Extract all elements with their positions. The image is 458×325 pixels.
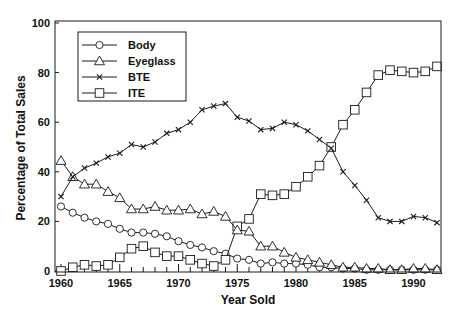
data-point [128,229,135,236]
data-point [103,187,113,196]
data-point [57,203,64,210]
data-point [292,182,301,191]
y-tick-label: 60 [38,116,50,128]
data-point [115,253,124,262]
data-point [362,88,371,97]
data-point [339,120,348,129]
data-point [245,215,254,224]
data-point [81,214,88,221]
data-point [92,262,101,271]
data-point [139,242,148,251]
data-point [127,244,136,253]
legend-label: BTE [128,71,150,83]
x-tick-label: 1975 [225,277,249,289]
y-tick-label: 100 [32,17,50,29]
x-tick-label: 1990 [401,277,425,289]
legend-label: Eyeglass [128,55,176,67]
legend-label: Body [128,39,156,51]
data-point [209,206,219,215]
y-axis-title: Percentage of Total Sales [14,75,28,220]
data-point [280,190,289,199]
data-point [93,218,100,225]
x-tick-label: 1970 [166,277,190,289]
data-point [188,120,193,125]
data-point [80,261,89,270]
data-point [162,205,172,214]
data-point [340,169,345,174]
data-point [186,256,195,265]
data-point [303,172,312,181]
data-point [163,233,170,240]
x-tick-label: 1965 [108,277,132,289]
data-point [221,211,231,220]
data-point [245,256,252,263]
data-point [80,179,90,188]
data-point [68,263,77,272]
data-point [421,67,430,76]
y-tick-label: 80 [38,67,50,79]
data-point [317,137,322,142]
data-point [152,139,157,144]
x-tick-label: 1960 [49,277,73,289]
data-point [350,106,359,115]
data-point [150,202,160,211]
data-point [376,215,381,220]
data-point [256,190,265,199]
y-tick-label: 20 [38,215,50,227]
data-point [199,107,204,112]
data-point [175,238,182,245]
data-point [140,229,147,236]
data-point [235,115,240,120]
data-point [279,247,289,256]
y-tick-label: 40 [38,166,50,178]
data-point [151,248,160,257]
data-point [117,151,122,156]
data-point [198,259,207,268]
data-point [185,204,195,213]
x-tick-label: 1980 [284,277,308,289]
series-body [57,203,440,273]
data-point [105,154,110,159]
data-point [291,252,301,261]
data-point [104,261,113,270]
x-tick-label: 1985 [343,277,367,289]
data-point [58,194,63,199]
legend-label: ITE [128,87,145,99]
data-point [305,128,310,133]
data-point [374,71,383,80]
data-point [221,256,230,265]
data-point [386,66,395,75]
data-point [434,220,439,225]
data-point [269,259,276,266]
data-point [151,230,158,237]
data-point [115,193,125,202]
data-point [315,161,324,170]
data-point [409,68,418,77]
data-point [364,198,369,203]
data-point [209,262,218,271]
data-point [198,244,205,251]
data-point [162,252,171,261]
data-point [281,260,288,267]
data-point [433,62,442,71]
data-point [116,225,123,232]
x-axis-title: Year Sold [221,293,276,307]
data-point [56,156,66,165]
legend: BodyEyeglassBTEITE [78,32,186,101]
data-point [104,220,111,227]
data-point [234,255,241,262]
square-marker-icon [95,89,104,98]
data-point [210,248,217,255]
data-point [91,179,101,188]
data-point [176,127,181,132]
series-bte [58,101,439,225]
data-point [94,161,99,166]
data-point [327,143,336,152]
data-point [174,252,183,261]
data-point [57,267,66,276]
data-point [69,209,76,216]
data-point [352,183,357,188]
circle-marker-icon [96,41,103,48]
data-point [257,260,264,267]
line-chart: 020406080100 196019651970197519801985199… [0,0,458,325]
